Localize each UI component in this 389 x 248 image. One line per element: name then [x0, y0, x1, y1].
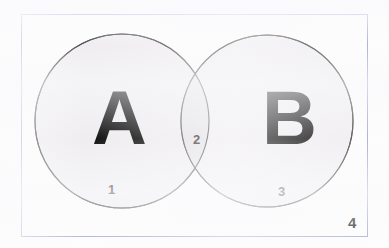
region-4-label: 4	[348, 215, 356, 230]
venn-diagram-figure: A B 1 2 3 4	[0, 0, 389, 248]
venn-circles-layer	[0, 0, 389, 248]
set-b-letter: B	[262, 80, 316, 156]
region-1-label: 1	[108, 183, 115, 196]
region-3-label: 3	[278, 185, 285, 198]
set-a-letter: A	[92, 80, 146, 156]
region-2-label: 2	[193, 133, 200, 146]
